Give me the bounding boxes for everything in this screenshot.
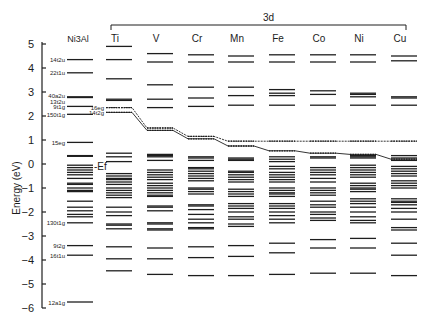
column-header-cr: Cr [192, 33, 203, 44]
orbital-label: 14t2u [50, 57, 65, 63]
orbital-label: 9t1g [53, 104, 65, 110]
orbital-label: 130t1g [47, 220, 65, 226]
column-header-ni: Ni [354, 33, 363, 44]
column-header-fe: Fe [272, 33, 284, 44]
y-tick-label: 4 [28, 62, 34, 74]
diagram-canvas: 543210−1−2−3−4−5−6Energy (eV) 3dNi3AlTiV… [0, 0, 435, 327]
orbital-label: 15eg [52, 140, 65, 146]
connector-traces [106, 108, 417, 160]
group-label: 3d [263, 12, 274, 23]
energy-level-diagram: 543210−1−2−3−4−5−6Energy (eV) 3dNi3AlTiV… [0, 0, 435, 327]
y-tick-label: −2 [21, 206, 34, 218]
orbital-label: 14t2g [89, 110, 104, 116]
column-cr [188, 55, 214, 276]
energy-levels [67, 46, 417, 302]
orbital-label: 9t2g [53, 243, 65, 249]
y-tick-label: −5 [21, 278, 34, 290]
y-tick-label: 5 [28, 38, 34, 50]
group-bracket [111, 25, 406, 30]
column-header-ti: Ti [111, 33, 119, 44]
lower-solid-trace [106, 112, 417, 159]
y-tick-label: 3 [28, 86, 34, 98]
column-header-cu: Cu [394, 33, 407, 44]
orbital-label: 12a1g [48, 300, 65, 306]
orbital-label: 22t1u [50, 70, 65, 76]
upper-dotted-trace [106, 108, 417, 142]
column-header-ni3al: Ni3Al [67, 34, 89, 44]
y-axis: 543210−1−2−3−4−5−6Energy (eV) [11, 38, 46, 314]
y-axis-label: Energy (eV) [11, 161, 22, 214]
fermi-level-label: -Ef [94, 161, 107, 172]
column-header-mn: Mn [230, 33, 244, 44]
column-mn [228, 56, 254, 276]
column-header-co: Co [313, 33, 326, 44]
column-header-v: V [153, 33, 160, 44]
y-tick-label: 2 [28, 110, 34, 122]
level-labels: 14t2u22t1u40a2u13t2u9t1g150t1g15eg130t1g… [47, 57, 107, 305]
y-tick-label: 1 [28, 134, 34, 146]
y-tick-label: −1 [21, 182, 34, 194]
orbital-label: 16t1u [50, 253, 65, 259]
column-v [147, 54, 173, 275]
y-tick-label: 0 [28, 158, 34, 170]
column-co [310, 55, 336, 273]
y-tick-label: −4 [21, 254, 34, 266]
y-tick-label: −3 [21, 230, 34, 242]
column-headers: 3dNi3AlTiVCrMnFeCoNiCu [67, 12, 406, 44]
column-ti [106, 46, 132, 270]
column-fe [269, 55, 295, 275]
column-ni [350, 55, 376, 273]
y-tick-label: −6 [21, 302, 34, 314]
column-ni3al [67, 60, 93, 302]
column-cu [391, 56, 417, 276]
orbital-label: 150t1g [47, 112, 65, 118]
